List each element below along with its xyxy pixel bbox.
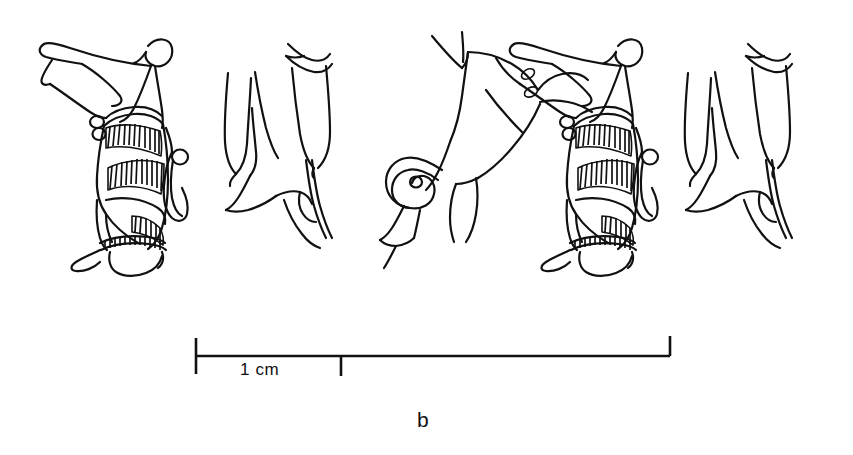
leg-1-front-edge — [685, 73, 696, 174]
eye-icon — [520, 67, 537, 82]
sash-inner-line — [641, 160, 652, 216]
leg-1-back-edge — [236, 78, 251, 174]
belt-knot-circle-a — [560, 116, 574, 128]
body-edge-left — [486, 90, 522, 132]
hind-limb-inner — [772, 160, 792, 238]
foot-rear — [579, 252, 632, 276]
hand-upper — [40, 44, 82, 64]
belt-knot-circle-a — [90, 116, 104, 128]
motif-quadruped-body-2 — [380, 32, 592, 268]
back-top-contour — [468, 52, 538, 90]
kilt-hatching-3 — [605, 216, 630, 244]
crook-tail — [134, 52, 146, 63]
belly-line — [478, 104, 540, 178]
hand-upper — [510, 44, 552, 64]
kilt-band-3 — [132, 216, 163, 245]
hoof-hook-cleft — [286, 56, 304, 58]
figure-panel: 1 cm b — [0, 0, 853, 455]
hind-limb-inner — [312, 160, 332, 238]
leg-1-back-edge — [696, 78, 711, 174]
leg-1-hoof — [690, 174, 696, 186]
motif-animal-legs-1 — [225, 44, 332, 248]
rear-haunch — [450, 184, 456, 242]
panel-label: b — [417, 408, 429, 432]
crook-tail — [604, 52, 616, 63]
leg-3-back-edge — [778, 66, 790, 168]
belly-lower — [456, 178, 478, 184]
crook-icon — [615, 39, 642, 66]
crook-icon — [145, 39, 172, 66]
sash-inner-line — [171, 160, 182, 216]
foot-rear — [109, 252, 162, 276]
lower-arm-contour — [50, 84, 106, 118]
foreleg-contour — [426, 142, 450, 190]
horn-short — [462, 32, 463, 62]
finger-detail-1 — [41, 60, 52, 85]
leg-2-front-edge — [715, 72, 738, 158]
kilt-hatching-3 — [135, 216, 160, 244]
rear-leg-back — [466, 178, 478, 242]
leg-1-front-edge — [225, 73, 236, 174]
leg-2-front-edge — [255, 72, 278, 158]
leg-3-front-edge — [292, 68, 314, 168]
leg-3-front-edge — [752, 68, 774, 168]
line-drawing-canvas — [0, 0, 853, 455]
kilt-band-3 — [602, 216, 633, 245]
foot-front — [542, 250, 571, 271]
hindquarter-contour — [276, 191, 312, 204]
scale-bar-label: 1 cm — [240, 360, 279, 380]
forearm-line — [82, 64, 121, 106]
leg-left-front-edge — [414, 210, 420, 238]
leg-2-inner-edge — [250, 108, 256, 176]
horn-long — [432, 36, 462, 68]
lower-shank-left — [384, 246, 396, 268]
motif-animal-legs-4 — [685, 44, 792, 248]
hoof-hook-cleft — [746, 56, 764, 58]
motif-kilted-figure-0 — [40, 39, 188, 275]
foot-front — [72, 250, 101, 271]
leg-3-back-edge — [318, 66, 330, 168]
hindquarter-contour — [736, 191, 772, 204]
lower-leg-left — [380, 206, 404, 240]
belt-lower — [104, 114, 163, 126]
hoof-left — [380, 238, 414, 246]
belt-lower — [574, 114, 633, 126]
snout-upper — [538, 73, 588, 90]
leg-1-hoof — [230, 174, 236, 186]
motif-kilted-figure-3 — [486, 39, 658, 275]
sash-bead-circle — [172, 150, 188, 165]
leg-2-inner-edge — [710, 108, 716, 176]
sash-bead-circle — [642, 150, 658, 165]
